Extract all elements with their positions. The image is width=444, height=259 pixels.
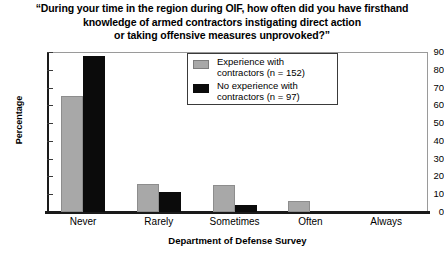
bar (213, 185, 235, 212)
bar-group (61, 52, 105, 212)
x-tick-label: Always (341, 216, 431, 227)
bar-group (364, 52, 408, 212)
bar (61, 96, 83, 212)
x-axis-title: Department of Defense Survey (47, 235, 428, 246)
bar (137, 184, 159, 212)
bar-chart: “During your time in the region during O… (0, 0, 444, 259)
legend-swatch-gray (193, 60, 209, 69)
bar (288, 201, 310, 212)
bar (83, 56, 105, 212)
legend-item-experience: Experience with contractors (n = 152) (193, 58, 337, 82)
bar (235, 205, 257, 212)
chart-title: “During your time in the region during O… (10, 2, 434, 43)
chart-title-line-3: or taking offensive measures unprovoked?… (10, 29, 434, 43)
legend-swatch-black (193, 84, 209, 93)
bar (159, 192, 181, 212)
legend-item-no-experience: No experience with contractors (n = 97) (193, 82, 337, 106)
chart-legend: Experience with contractors (n = 152) No… (187, 53, 338, 105)
bar-group (137, 52, 181, 212)
chart-title-line-2: knowledge of armed contractors instigati… (10, 16, 434, 30)
legend-label-no-experience: No experience with contractors (n = 97) (217, 80, 300, 102)
legend-label-experience: Experience with contractors (n = 152) (217, 56, 305, 78)
y-axis-title: Percentage (14, 80, 24, 160)
chart-title-line-1: “During your time in the region during O… (10, 2, 434, 16)
